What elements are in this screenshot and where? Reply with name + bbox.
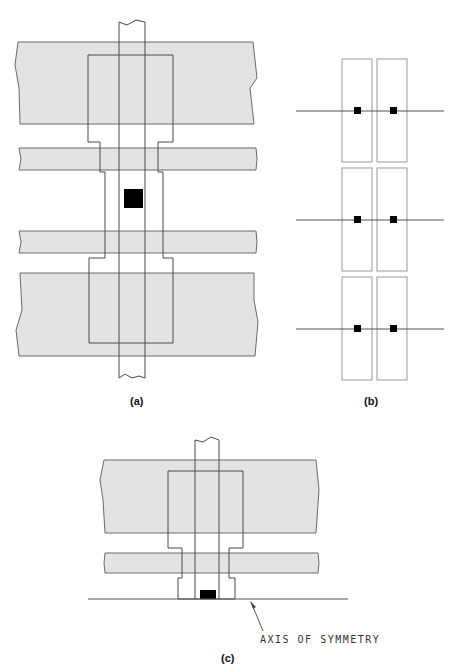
panel-b — [296, 59, 444, 380]
caption-c: (c) — [221, 652, 234, 664]
panel-c — [88, 437, 348, 631]
poly-band — [104, 553, 319, 573]
poly-band-upper — [19, 148, 257, 170]
contact-square — [390, 216, 397, 223]
axis-of-symmetry-label: AXIS OF SYMMETRY — [260, 634, 380, 645]
contact-square — [390, 107, 397, 114]
diffusion-band-bottom — [16, 273, 258, 356]
arrow-head-icon — [250, 601, 256, 609]
panel-a — [15, 20, 258, 378]
contact-square — [124, 189, 143, 208]
poly-band-lower — [19, 231, 257, 253]
layout-figure — [0, 0, 457, 672]
caption-b: (b) — [364, 395, 378, 407]
contact-square — [354, 107, 361, 114]
diffusion-band-top — [15, 42, 257, 124]
caption-a: (a) — [130, 395, 143, 407]
contact-square — [354, 216, 361, 223]
contact-rect — [200, 590, 216, 599]
contact-square — [354, 325, 361, 332]
contact-square — [390, 325, 397, 332]
